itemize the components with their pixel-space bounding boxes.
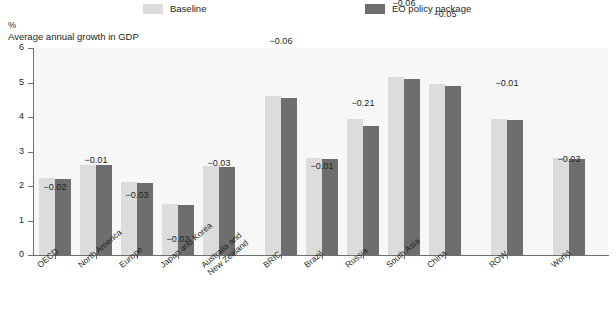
bar-value-label: −0.03 [543, 154, 595, 164]
y-axis-tick-label: 0 [6, 249, 24, 259]
bar-value-label: −0.06 [378, 0, 430, 8]
y-axis-tick-label: 5 [6, 77, 24, 87]
chart-legend: Baseline EO policy package [0, 3, 616, 21]
bar-eo [569, 159, 585, 255]
bar-eo [363, 126, 379, 255]
y-axis-tick [28, 255, 34, 256]
y-axis-tick [28, 117, 34, 118]
bar-value-label: −0.06 [255, 36, 307, 46]
y-axis-tick [28, 48, 34, 49]
bar-value-label: −0.01 [70, 155, 122, 165]
bar-eo [445, 86, 461, 255]
bar-baseline [429, 84, 445, 255]
bar-baseline [388, 77, 404, 255]
bar-value-label: −0.21 [337, 98, 389, 108]
y-axis-tick-label: 2 [6, 180, 24, 190]
bar-value-label: −0.01 [481, 78, 533, 88]
bar-value-label: −0.05 [419, 9, 471, 19]
y-axis-tick [28, 152, 34, 153]
bar-baseline [306, 158, 322, 255]
bar-value-label: −0.02 [29, 182, 81, 192]
bar-eo [322, 159, 338, 255]
y-axis-tick [28, 83, 34, 84]
legend-item-baseline: Baseline [143, 3, 206, 14]
bar-baseline [80, 165, 96, 255]
bar-value-label: −0.03 [111, 190, 163, 200]
gdp-growth-chart: Baseline EO policy package % Average ann… [0, 0, 616, 327]
bar-eo [507, 120, 523, 255]
y-axis-tick-label: 1 [6, 215, 24, 225]
bar-baseline [203, 166, 219, 255]
y-axis-tick-label: 4 [6, 111, 24, 121]
bar-baseline [553, 158, 569, 255]
bar-value-label: −0.03 [193, 158, 245, 168]
y-axis-unit-label: % [8, 20, 16, 30]
bar-baseline [347, 119, 363, 255]
bar-eo [404, 79, 420, 255]
bar-baseline [265, 96, 281, 255]
legend-swatch-baseline [143, 4, 163, 14]
y-axis-tick-label: 3 [6, 146, 24, 156]
bar-value-label: −0.01 [296, 161, 348, 171]
bar-eo [281, 98, 297, 255]
legend-label-baseline: Baseline [170, 3, 206, 14]
y-axis-title: Average annual growth in GDP [8, 31, 139, 42]
y-axis-tick-label: 6 [6, 42, 24, 52]
bar-baseline [491, 119, 507, 255]
y-axis-tick [28, 221, 34, 222]
